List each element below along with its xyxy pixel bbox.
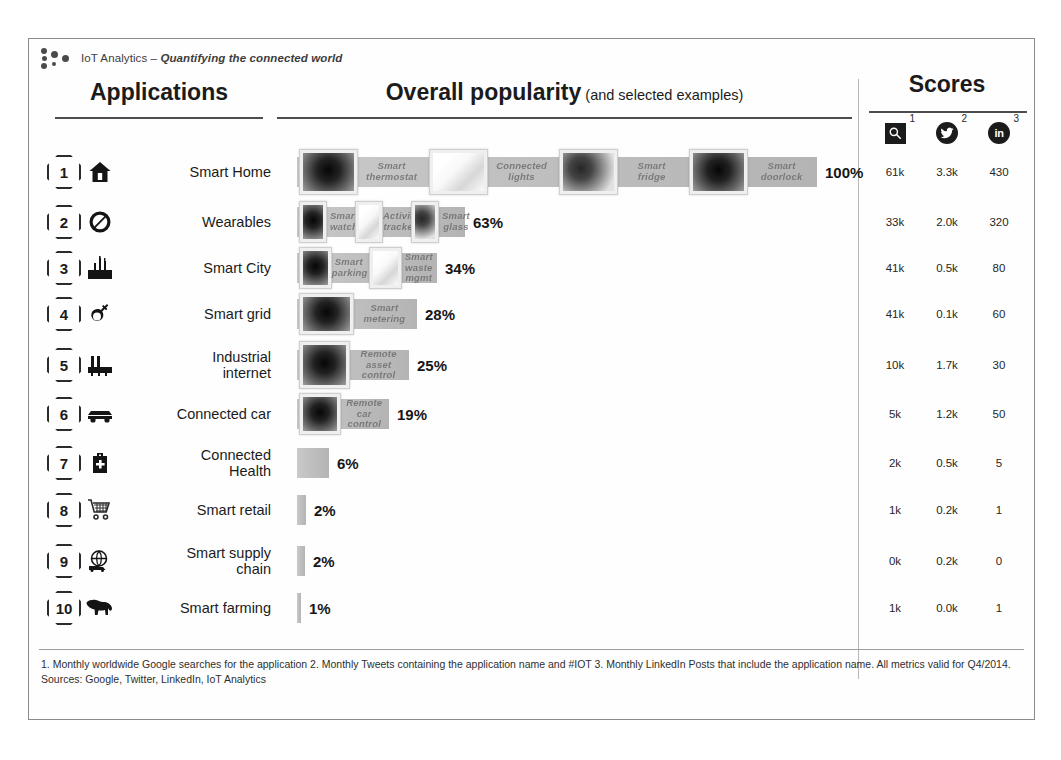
table-row: 4Smart gridSmart metering28%41k0.1k60 (29, 291, 1034, 337)
popularity-percent: 6% (337, 455, 359, 472)
score-column-icons: 1 2 in 3 (869, 115, 1029, 151)
house-icon (83, 157, 117, 187)
score-value: 50 (973, 408, 1025, 420)
score-value: 41k (869, 308, 921, 320)
table-row: 3Smart CitySmart parkingSmart waste mgmt… (29, 245, 1034, 291)
popularity-percent: 25% (417, 357, 447, 374)
rank-badge: 3 (47, 251, 81, 285)
column-header-scores: Scores (867, 71, 1027, 98)
example-label: Smart fridge (618, 161, 685, 182)
example-label: Connected lights (488, 161, 555, 182)
example-thumbnail (411, 201, 439, 243)
example-label: Remote asset control (350, 349, 407, 381)
popularity-bar-row: Smart watchActivity trackerSmart glass63… (297, 202, 503, 242)
table-row: 10Smart farming1%1k0.0k1 (29, 585, 1034, 631)
score-value: 80 (973, 262, 1025, 274)
popularity-bar (297, 593, 301, 623)
table-row: 1Smart HomeSmart thermostatConnected lig… (29, 147, 1034, 197)
popularity-bar-row: Smart thermostatConnected lightsSmart fr… (297, 152, 863, 192)
column-header-applications: Applications (49, 79, 269, 106)
application-label: Smart supply chain (119, 545, 271, 577)
score-value: 0k (869, 555, 921, 567)
score-value: 0.5k (921, 262, 973, 274)
score-value: 0.0k (921, 602, 973, 614)
score-value: 1.2k (921, 408, 973, 420)
example-label: Smart parking (332, 257, 366, 278)
score-value: 0 (973, 555, 1025, 567)
popularity-bar (297, 546, 305, 576)
score-value: 430 (973, 166, 1025, 178)
score-value: 2k (869, 457, 921, 469)
score-column-google: 1 (869, 115, 921, 151)
rank-badge: 2 (47, 205, 81, 239)
example-thumbnail (689, 149, 748, 195)
popularity-percent: 19% (397, 406, 427, 423)
footnote-block: 1. Monthly worldwide Google searches for… (41, 657, 1016, 687)
rank-badge: 10 (47, 591, 81, 625)
example-thumbnail (299, 341, 350, 389)
application-label: Smart grid (119, 306, 271, 322)
footnote-ref-1: 1 (909, 113, 915, 124)
example-label: Smart metering (354, 303, 415, 324)
cow-icon (83, 593, 117, 623)
popularity-percent: 2% (314, 502, 336, 519)
application-label: Connected car (119, 406, 271, 422)
popularity-bar-row: 1% (297, 588, 331, 628)
twitter-bird-icon (936, 122, 958, 144)
popularity-bar: Smart parkingSmart waste mgmt (297, 253, 437, 283)
footnote-ref-2: 2 (961, 113, 967, 124)
score-value: 0.5k (921, 457, 973, 469)
footnote-notes: 1. Monthly worldwide Google searches for… (41, 658, 1011, 670)
application-label: Wearables (119, 214, 271, 230)
example-label: Remote car control (341, 398, 387, 430)
score-value: 3.3k (921, 166, 973, 178)
table-row: 7Connected Health6%2k0.5k5 (29, 437, 1034, 489)
score-column-twitter: 2 (921, 115, 973, 151)
google-search-icon (885, 123, 906, 144)
iot-analytics-dots-logo-icon (39, 46, 73, 70)
score-value: 1k (869, 602, 921, 614)
score-value: 2.0k (921, 216, 973, 228)
popularity-bar-row: Smart parkingSmart waste mgmt34% (297, 248, 475, 288)
example-label: Smart waste mgmt (402, 252, 436, 284)
linkedin-icon: in (988, 122, 1010, 144)
brand-tagline: Quantifying the connected world (160, 52, 342, 64)
footnote-ref-3: 3 (1013, 113, 1019, 124)
popularity-bar: Remote asset control (297, 350, 409, 380)
rank-badge: 7 (47, 446, 81, 480)
popularity-bar-row: 2% (297, 490, 336, 530)
rank-badge: 6 (47, 397, 81, 431)
divider-applications (55, 117, 263, 119)
medical-kit-icon (83, 448, 117, 478)
shopping-cart-icon (83, 495, 117, 525)
power-plug-icon (83, 299, 117, 329)
example-label: Smart glass (439, 211, 473, 232)
popularity-bar-row: Remote asset control25% (297, 345, 447, 385)
popularity-percent: 1% (309, 600, 331, 617)
application-label: Smart retail (119, 502, 271, 518)
popularity-bar-row: Remote car control19% (297, 394, 427, 434)
wearable-ring-icon (83, 207, 117, 237)
globe-truck-icon (83, 546, 117, 576)
score-value: 10k (869, 359, 921, 371)
popularity-percent: 63% (473, 214, 503, 231)
brand-name: IoT Analytics (81, 52, 147, 64)
rank-badge: 8 (47, 493, 81, 527)
rank-badge: 9 (47, 544, 81, 578)
score-value: 320 (973, 216, 1025, 228)
popularity-bar: Remote car control (297, 399, 389, 429)
table-row: 9Smart supply chain2%0k0.2k0 (29, 535, 1034, 587)
example-thumbnail (299, 393, 341, 435)
application-label: Industrial internet (119, 349, 271, 381)
table-row: 6Connected carRemote car control19%5k1.2… (29, 391, 1034, 437)
factory-icon (83, 350, 117, 380)
example-thumbnail (429, 149, 488, 195)
column-header-popularity: Overall popularity (and selected example… (277, 79, 852, 106)
car-icon (83, 399, 117, 429)
example-thumbnail (299, 201, 327, 243)
example-label: Smart doorlock (748, 161, 815, 182)
popularity-bar: Smart watchActivity trackerSmart glass (297, 207, 465, 237)
score-value: 30 (973, 359, 1025, 371)
score-value: 61k (869, 166, 921, 178)
score-value: 1k (869, 504, 921, 516)
